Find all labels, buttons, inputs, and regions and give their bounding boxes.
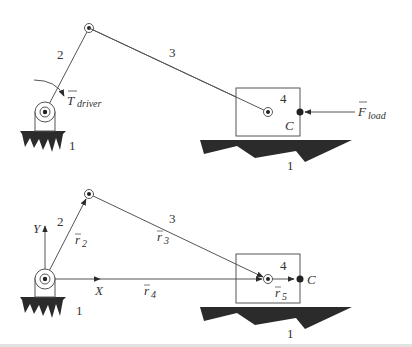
x-axis-label: X (94, 283, 104, 298)
link-label-ground-right-top: 1 (287, 158, 294, 173)
svg-text:load: load (368, 110, 387, 121)
vector-label-r2: r 2 (75, 232, 87, 249)
force-label: F load (357, 102, 387, 121)
point-c-dot-top (297, 109, 304, 116)
vector-r3-arrow-icon (89, 194, 263, 277)
mechanism-figure: 1 2 3 T driver 4 C (0, 0, 412, 347)
slider-pin-icon (264, 108, 273, 117)
top-diagram: 1 2 3 T driver 4 C (20, 24, 387, 174)
svg-text:F: F (357, 104, 367, 119)
point-label-c-top: C (285, 118, 294, 133)
link-label-coupler-top: 3 (169, 45, 176, 60)
ground-right-top (200, 140, 352, 162)
link-label-ground-right-bottom: 1 (287, 326, 294, 341)
svg-text:4: 4 (151, 289, 156, 300)
crank-pin-bottom-icon (85, 190, 94, 199)
link-label-coupler-bottom: 3 (169, 211, 176, 226)
link-label-slider-top: 4 (280, 91, 287, 106)
link-label-crank-top: 2 (57, 47, 64, 62)
ground-pivot-bottom-icon (35, 269, 55, 289)
torque-arrow-icon (34, 80, 64, 96)
link-label-ground-left-bottom: 1 (76, 303, 83, 318)
svg-text:3: 3 (163, 235, 169, 246)
point-c-dot-bottom (297, 276, 304, 283)
ground-pivot-icon (35, 102, 55, 122)
point-label-c-bottom: C (307, 272, 316, 287)
torque-label: T driver (67, 91, 102, 109)
link-label-crank-bottom: 2 (57, 214, 64, 229)
vector-label-r5: r 5 (275, 285, 287, 302)
y-axis-label: Y (33, 221, 42, 236)
svg-text:2: 2 (82, 238, 87, 249)
link-label-ground-left-top: 1 (69, 138, 76, 153)
bottom-diagram: 1 Y X 2 3 r 2 r 3 (20, 190, 352, 342)
ground-right-bottom (200, 307, 352, 329)
vector-label-r4: r 4 (144, 283, 156, 300)
link-label-slider-bottom: 4 (280, 258, 287, 273)
svg-text:driver: driver (77, 98, 102, 109)
slider-pin-bottom-icon (264, 275, 273, 284)
svg-text:T: T (67, 93, 75, 108)
svg-text:5: 5 (282, 291, 287, 302)
